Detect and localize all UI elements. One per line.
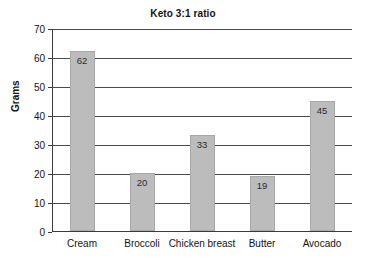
y-axis-tick-label: 10	[34, 198, 45, 209]
tick-mark	[48, 116, 52, 117]
x-axis-tick-label: Cream	[67, 238, 97, 249]
tick-mark	[48, 203, 52, 204]
gridline	[52, 87, 352, 88]
bar-value-label: 33	[191, 139, 214, 150]
x-axis-tick-label: Chicken breast	[169, 238, 236, 249]
tick-mark	[48, 87, 52, 88]
tick-mark	[48, 58, 52, 59]
y-axis-tick-label: 30	[34, 140, 45, 151]
x-axis-tick-label: Avocado	[303, 238, 342, 249]
y-axis-tick-label: 0	[39, 227, 45, 238]
bar: 20	[130, 173, 155, 231]
bar-value-label: 62	[71, 55, 94, 66]
bar: 19	[250, 176, 275, 231]
bar: 33	[190, 135, 215, 231]
y-axis-tick-label: 40	[34, 111, 45, 122]
x-axis-line	[52, 231, 352, 232]
bar-value-label: 19	[251, 180, 274, 191]
chart-title: Keto 3:1 ratio	[0, 8, 366, 19]
y-axis-line	[52, 29, 53, 232]
y-axis-tick-label: 70	[34, 24, 45, 35]
bar: 62	[70, 51, 95, 231]
gridline	[52, 58, 352, 59]
gridline	[52, 29, 352, 30]
bar-value-label: 45	[311, 105, 334, 116]
tick-mark	[48, 145, 52, 146]
y-axis-tick-label: 50	[34, 82, 45, 93]
bar-chart: Keto 3:1 ratio Grams 010203040506070 622…	[0, 0, 366, 266]
tick-mark	[48, 29, 52, 30]
plot-area: 010203040506070 6220331945	[52, 29, 352, 232]
y-axis-tick-label: 60	[34, 53, 45, 64]
bar: 45	[310, 101, 335, 232]
x-axis-tick-label: Broccoli	[124, 238, 160, 249]
tick-mark	[48, 232, 52, 233]
gridline	[52, 116, 352, 117]
y-axis-label: Grams	[10, 80, 21, 112]
tick-mark	[48, 174, 52, 175]
bar-value-label: 20	[131, 177, 154, 188]
x-axis-tick-label: Butter	[249, 238, 276, 249]
y-axis-tick-label: 20	[34, 169, 45, 180]
